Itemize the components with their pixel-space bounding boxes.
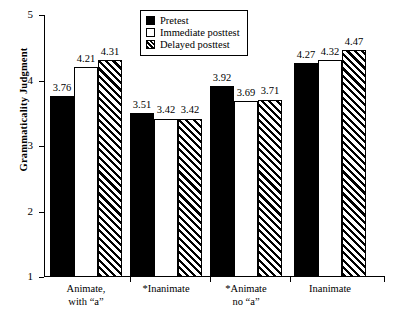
- bar-value-label: 3.76: [53, 82, 71, 93]
- bar-delayed: [98, 60, 122, 277]
- x-axis-tick: [290, 277, 291, 282]
- bar-value-label: 3.51: [133, 99, 151, 110]
- x-axis-category-label: Inanimate: [309, 283, 351, 296]
- bar-pretest: [130, 113, 154, 277]
- y-axis-tick-label: 5: [9, 8, 33, 20]
- bar-value-label: 3.92: [213, 72, 231, 83]
- bar-pretest: [210, 86, 234, 277]
- legend-item-delayed-posttest: Delayed posttest: [146, 39, 240, 50]
- legend-item-pretest: Pretest: [146, 15, 240, 26]
- bar-value-label: 3.71: [261, 85, 279, 96]
- x-axis-category-line: with “a”: [67, 296, 106, 309]
- solid-black-swatch-icon: [146, 16, 155, 25]
- x-axis-category-line: Animate,: [67, 283, 106, 296]
- y-axis-title: Grammaticality Judgment: [18, 15, 29, 205]
- legend-item-label: Immediate posttest: [160, 27, 240, 38]
- legend-item-immediate-posttest: Immediate posttest: [146, 27, 240, 38]
- bar-delayed: [342, 50, 366, 277]
- x-axis-category-label: *Animateno “a”: [225, 283, 266, 308]
- legend-item-label: Delayed posttest: [160, 39, 230, 50]
- bar-value-label: 3.42: [181, 104, 199, 115]
- hatched-swatch-icon: [146, 40, 155, 49]
- chart-legend: Pretest Immediate posttest Delayed postt…: [140, 10, 248, 56]
- x-axis-tick: [384, 277, 385, 282]
- white-swatch-icon: [146, 28, 155, 37]
- y-axis-tick: [39, 15, 44, 16]
- x-axis-category-line: *Inanimate: [142, 283, 189, 296]
- x-axis-category-line: *Animate: [225, 283, 266, 296]
- x-axis-category-line: no “a”: [225, 296, 266, 309]
- y-axis-tick-label: 4: [9, 74, 33, 86]
- y-axis-tick-label: 2: [9, 205, 33, 217]
- y-axis-tick-label: 1: [9, 270, 33, 282]
- y-axis-line: [44, 15, 45, 277]
- bar-value-label: 3.42: [157, 104, 175, 115]
- y-axis-tick-label: 3: [9, 139, 33, 151]
- grammaticality-judgment-bar-chart: Grammaticality Judgment 12345 3.764.214.…: [0, 0, 394, 314]
- bar-value-label: 4.21: [77, 53, 95, 64]
- y-axis-tick: [39, 146, 44, 147]
- bar-delayed: [258, 100, 282, 278]
- bar-value-label: 4.27: [297, 49, 315, 60]
- bar-value-label: 4.31: [101, 46, 119, 57]
- bar-pretest: [50, 96, 74, 277]
- bar-pretest: [294, 63, 318, 277]
- bar-delayed: [178, 119, 202, 278]
- x-axis-category-label: *Inanimate: [142, 283, 189, 296]
- bar-value-label: 3.69: [237, 87, 255, 98]
- x-axis-category-label: Animate,with “a”: [67, 283, 106, 308]
- bar-immediate: [318, 60, 342, 277]
- bar-immediate: [154, 119, 178, 278]
- bar-value-label: 4.32: [321, 46, 339, 57]
- y-axis-tick: [39, 212, 44, 213]
- y-axis-tick: [39, 81, 44, 82]
- bar-immediate: [74, 67, 98, 277]
- bar-value-label: 4.47: [345, 36, 363, 47]
- legend-item-label: Pretest: [160, 15, 189, 26]
- x-axis-category-line: Inanimate: [309, 283, 351, 296]
- y-axis-tick: [39, 277, 44, 278]
- bar-immediate: [234, 101, 258, 277]
- x-axis-tick: [210, 277, 211, 282]
- x-axis-tick: [130, 277, 131, 282]
